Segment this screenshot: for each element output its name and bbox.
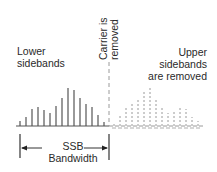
arrow-left-icon — [21, 146, 27, 151]
ssb-spectrum-diagram — [0, 0, 217, 172]
ssb-label-line-1: SSB — [38, 140, 108, 152]
ssb-bandwidth-label: SSB Bandwidth — [38, 140, 108, 164]
ssb-label-line-2: Bandwidth — [38, 152, 108, 164]
